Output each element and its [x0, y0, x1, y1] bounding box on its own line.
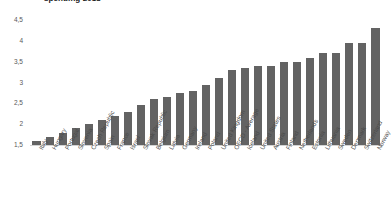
plot-area — [30, 18, 382, 145]
y-tick-label: 2 — [19, 121, 23, 128]
y-tick-label: 4 — [19, 38, 23, 45]
y-tick-label: 1,5 — [14, 142, 23, 149]
y-tick-label: 3 — [19, 79, 23, 86]
y-tick-label: 4,5 — [14, 17, 23, 24]
y-axis: 4,543,532,521,5 — [0, 0, 30, 213]
y-tick-label: 3,5 — [14, 58, 23, 65]
chart-title: spending 2018 — [44, 0, 101, 5]
y-tick-label: 2,5 — [14, 100, 23, 107]
